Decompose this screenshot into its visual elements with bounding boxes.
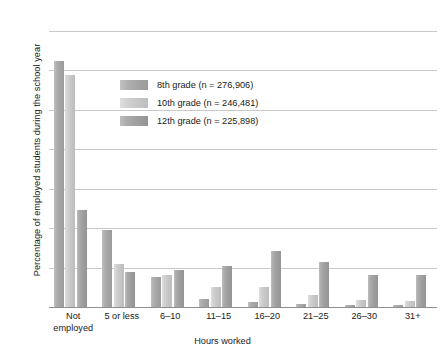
bar-group (248, 31, 281, 307)
bar[interactable] (174, 270, 184, 307)
bar-group (54, 31, 87, 307)
x-axis-tick-label-line: employed (39, 323, 108, 335)
bar[interactable] (77, 210, 87, 307)
bar[interactable] (151, 277, 161, 307)
bar[interactable] (65, 75, 75, 307)
bar[interactable] (319, 262, 329, 307)
gridline (49, 307, 437, 308)
legend-item-12th-grade: 12th grade (n = 225,898) (120, 113, 258, 129)
bar-group (199, 31, 232, 307)
bar-group (296, 31, 329, 307)
bar[interactable] (308, 295, 318, 307)
legend-label-8th-grade: 8th grade (n = 276,906) (157, 80, 253, 90)
bar[interactable] (393, 305, 403, 307)
bar[interactable] (368, 275, 378, 307)
bar-group (393, 31, 426, 307)
legend-swatch-icon-10th-grade (120, 98, 148, 108)
bar[interactable] (125, 272, 135, 307)
bar[interactable] (211, 287, 221, 307)
y-axis-title: Percentage of employed students during t… (32, 20, 42, 300)
bar[interactable] (296, 304, 306, 307)
x-axis-tick-label-line: 31+ (379, 311, 445, 323)
bar[interactable] (102, 230, 112, 307)
x-axis-tick-label: 31+ (379, 311, 445, 323)
bar-group (345, 31, 378, 307)
bars-layer (49, 31, 437, 307)
bar[interactable] (54, 61, 64, 307)
bar[interactable] (416, 275, 426, 307)
legend-swatch-icon-12th-grade (120, 116, 148, 126)
bar-group (102, 31, 135, 307)
legend-label-12th-grade: 12th grade (n = 225,898) (157, 116, 258, 126)
bar[interactable] (259, 287, 269, 307)
legend-item-10th-grade: 10th grade (n = 246,481) (120, 95, 258, 111)
bar[interactable] (199, 299, 209, 307)
x-axis-title: Hours worked (0, 336, 445, 346)
bar[interactable] (271, 251, 281, 307)
bar[interactable] (405, 301, 415, 307)
bar[interactable] (356, 300, 366, 307)
legend-label-10th-grade: 10th grade (n = 246,481) (157, 98, 258, 108)
bar[interactable] (345, 305, 355, 307)
chart-legend: 8th grade (n = 276,906) 10th grade (n = … (120, 77, 258, 131)
bar[interactable] (114, 264, 124, 307)
legend-item-8th-grade: 8th grade (n = 276,906) (120, 77, 258, 93)
plot-area (49, 31, 437, 307)
bar[interactable] (162, 275, 172, 307)
legend-swatch-icon-8th-grade (120, 80, 148, 90)
bar[interactable] (222, 266, 232, 307)
bar[interactable] (248, 302, 258, 307)
bar-group (151, 31, 184, 307)
bar-chart: Percentage of employed students during t… (0, 0, 445, 352)
